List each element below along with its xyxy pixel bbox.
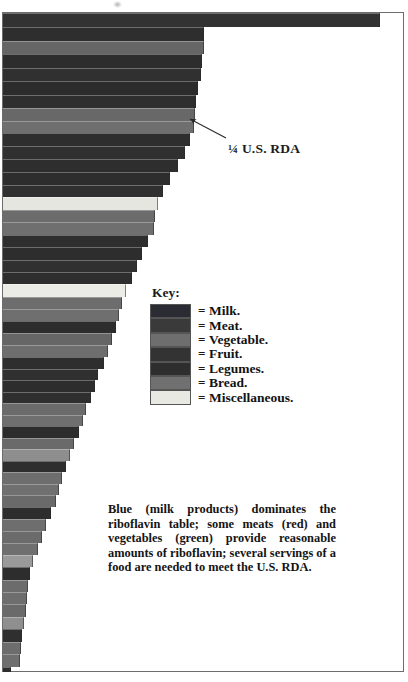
- chart-bar: [3, 108, 195, 121]
- chart-bar: [3, 146, 185, 159]
- chart-bar: [3, 345, 108, 357]
- chart-bar: [3, 531, 42, 543]
- chart-bar: [3, 54, 202, 68]
- chart-bar: [3, 604, 26, 617]
- chart-bar: [3, 580, 28, 592]
- chart-bar: [3, 185, 163, 197]
- chart-bar: [3, 472, 62, 484]
- chart-bar: [3, 159, 178, 172]
- chart-bar: [3, 333, 112, 345]
- chart-bar: [3, 567, 30, 580]
- figure-caption: Blue (milk products) dominates the ribof…: [108, 502, 336, 575]
- legend-rows: =Milk.=Meat.=Vegetable.=Fruit.=Legumes.=…: [150, 304, 300, 405]
- chart-bar: [3, 380, 95, 392]
- chart-bar: [3, 438, 74, 449]
- legend-color-swatch: [150, 318, 191, 332]
- chart-bar: [3, 629, 22, 642]
- chart-bar: [3, 495, 56, 507]
- chart-bar: [3, 284, 126, 297]
- chart-bar: [3, 297, 122, 309]
- chart-bar: [3, 543, 38, 555]
- chart-bar: [3, 321, 116, 333]
- chart-bar: [3, 592, 27, 604]
- chart-bar: [3, 121, 194, 133]
- chart-bar: [3, 197, 158, 210]
- legend-item: =Miscellaneous.: [150, 390, 300, 404]
- legend-color-swatch: [150, 390, 191, 404]
- chart-bar: [3, 555, 33, 567]
- chart-bar: [3, 392, 91, 403]
- chart-bar: [3, 519, 46, 531]
- legend-item: =Legumes.: [150, 362, 300, 376]
- legend-title: Key:: [152, 285, 300, 301]
- chart-bar: [3, 247, 142, 260]
- legend-color-swatch: [150, 333, 191, 347]
- chart-bar: [3, 415, 83, 426]
- chart-bar: [3, 13, 380, 27]
- chart-bar: [3, 272, 132, 284]
- chart-bar: [3, 172, 170, 185]
- chart-bar: [3, 484, 59, 495]
- chart-bar: [3, 68, 201, 81]
- legend-item: =Bread.: [150, 376, 300, 390]
- legend-item: =Vegetable.: [150, 333, 300, 347]
- chart-bar: [3, 654, 20, 667]
- chart-bar: [3, 260, 137, 272]
- chart-bar: [3, 642, 21, 654]
- legend-color-swatch: [150, 362, 191, 376]
- legend-color-swatch: [150, 376, 191, 390]
- chart-bar: [3, 507, 51, 519]
- chart-bar: [3, 41, 204, 54]
- legend-color-swatch: [150, 304, 191, 318]
- legend-item: =Fruit.: [150, 347, 300, 361]
- chart-bar: [3, 309, 119, 321]
- chart-bar: [3, 667, 11, 672]
- legend-item-label: Miscellaneous.: [209, 390, 293, 406]
- rda-annotation-label: ¼ U.S. RDA: [228, 141, 300, 157]
- chart-bar: [3, 27, 204, 41]
- legend: Key: =Milk.=Meat.=Vegetable.=Fruit.=Legu…: [150, 285, 300, 405]
- legend-color-swatch: [150, 347, 191, 361]
- chart-bar: [3, 95, 196, 108]
- chart-bar: [3, 369, 98, 380]
- legend-item: =Meat.: [150, 318, 300, 332]
- chart-bar: [3, 81, 198, 95]
- legend-item: =Milk.: [150, 304, 300, 318]
- chart-bar: [3, 133, 190, 146]
- chart-bar: [3, 235, 148, 247]
- chart-bar: [3, 426, 79, 438]
- chart-bar: [3, 210, 155, 222]
- chart-bar: [3, 617, 24, 629]
- chart-bar: [3, 449, 70, 461]
- figure-page: ¼ U.S. RDA Key: =Milk.=Meat.=Vegetable.=…: [0, 0, 408, 682]
- chart-bar: [3, 222, 154, 235]
- chart-bar: [3, 357, 104, 369]
- chart-bar: [3, 403, 86, 415]
- legend-equals-sign: =: [198, 390, 209, 406]
- chart-bar: [3, 461, 66, 472]
